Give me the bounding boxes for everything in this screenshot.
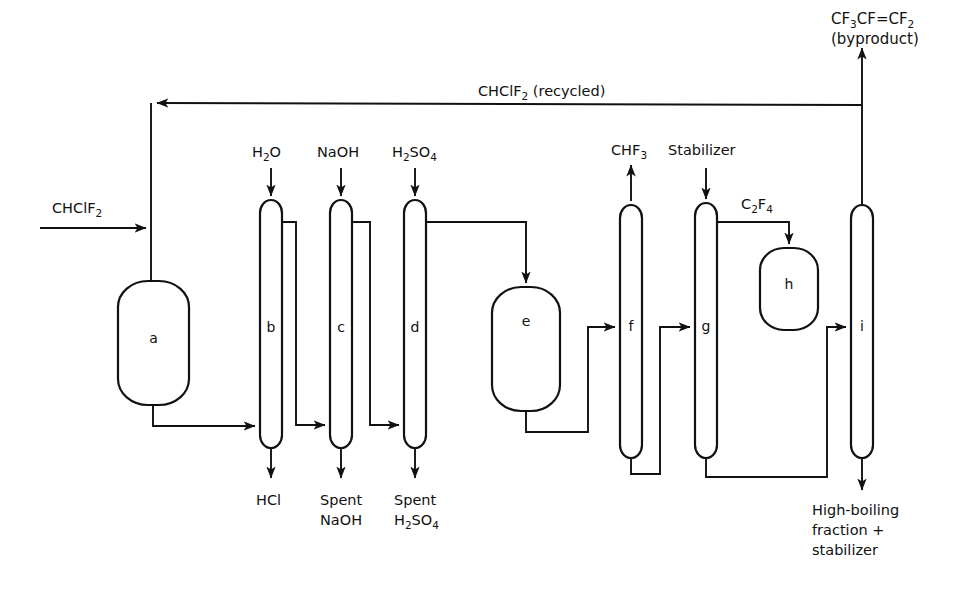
label-hcl: HCl — [256, 492, 281, 508]
stream-c2f4-to-h — [717, 222, 789, 244]
equipment-i-tag: i — [860, 318, 864, 334]
label-spent-caustic-line1: Spent — [320, 492, 363, 508]
flowsheet-canvas: a b c d e f g h i — [0, 0, 966, 592]
equipment-a[interactable]: a — [118, 281, 189, 405]
label-acid: H2SO4 — [392, 144, 437, 163]
stream-a-to-b — [153, 405, 255, 426]
label-heavies-line3: stabilizer — [812, 542, 878, 558]
stream-g-to-i — [706, 327, 846, 477]
label-feed: CHClF2 — [52, 200, 102, 219]
equipment-c-tag: c — [337, 319, 345, 335]
label-caustic: NaOH — [317, 144, 359, 160]
equipment-h-tag: h — [785, 276, 794, 292]
label-spent-acid-line1: Spent — [394, 492, 437, 508]
label-spent-caustic-line2: NaOH — [320, 512, 362, 528]
equipment-g-tag: g — [702, 318, 711, 334]
label-water: H2O — [252, 144, 281, 163]
equipment-a-tag: a — [149, 330, 158, 346]
equipment-g[interactable]: g — [695, 203, 717, 458]
label-chf3: CHF3 — [611, 142, 647, 161]
stream-d-to-e — [426, 222, 526, 283]
equipment-b[interactable]: b — [260, 200, 282, 448]
label-heavies-line2: fraction + — [812, 522, 884, 538]
label-byproduct-line1: CF3CF=CF2 — [831, 10, 914, 30]
equipment-f[interactable]: f — [620, 205, 642, 458]
stream-b-to-c — [282, 222, 325, 425]
label-c2f4: C2F4 — [741, 196, 773, 215]
label-spent-acid-line2: H2SO4 — [394, 512, 439, 531]
label-byproduct-line2: (byproduct) — [831, 30, 919, 48]
label-heavies-line1: High-boiling — [812, 502, 899, 518]
process-flow-diagram: a b c d e f g h i — [0, 0, 966, 592]
stream-c-to-d — [352, 222, 399, 425]
label-recycle: CHClF2 (recycled) — [478, 83, 605, 102]
label-stabilizer: Stabilizer — [668, 142, 736, 158]
equipment-i[interactable]: i — [851, 205, 873, 458]
equipment-c[interactable]: c — [330, 200, 352, 448]
stream-recycle-header — [157, 103, 862, 105]
equipment-h[interactable]: h — [760, 248, 818, 330]
equipment-d-tag: d — [411, 319, 420, 335]
equipment-e-tag: e — [522, 313, 531, 329]
equipment-d[interactable]: d — [404, 200, 426, 448]
equipment-e[interactable]: e — [492, 287, 560, 411]
equipment-b-tag: b — [267, 319, 276, 335]
